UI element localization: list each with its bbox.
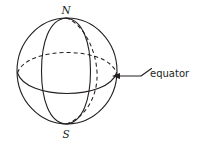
equator-back-arc bbox=[18, 53, 117, 74]
north-pole-label: N bbox=[61, 4, 72, 16]
sphere-diagram: N S equator bbox=[0, 0, 200, 142]
equator-callout-label: equator bbox=[150, 68, 190, 79]
south-pole-label: S bbox=[63, 128, 70, 140]
front-meridian bbox=[42, 18, 91, 124]
back-meridian bbox=[66, 18, 97, 124]
equator-front-arc bbox=[18, 73, 117, 94]
sphere-outline bbox=[17, 18, 117, 124]
equator-leader-line bbox=[117, 69, 152, 77]
sphere-diagram-svg: N S equator bbox=[0, 0, 200, 142]
